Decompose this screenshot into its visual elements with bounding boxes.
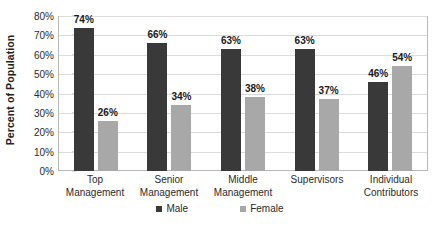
y-axis-title: Percent of Population [0,0,20,180]
x-axis-label-line1: Top [87,174,103,185]
bar-value-label: 37% [319,85,339,96]
bar-chart: Percent of Population 80%70%60%50%40%30%… [0,0,440,233]
bar-group: 63%38% [206,16,280,171]
y-axis-tick-label: 10% [18,146,54,157]
legend-label: Male [166,203,188,214]
y-axis-tick-label: 70% [18,30,54,41]
y-axis-tick-label: 50% [18,69,54,80]
bar-male[interactable]: 66% [147,43,167,171]
bar-groups: 74%26%66%34%63%38%63%37%46%54% [59,16,427,171]
x-axis-label-line1: Senior [155,174,184,185]
x-axis-category-labels: TopManagementSeniorManagementMiddleManag… [58,174,428,204]
x-axis-label-line1: Supervisors [291,174,344,185]
x-axis-label: IndividualContributors [354,174,428,204]
legend-label: Female [250,203,283,214]
bar-female[interactable]: 54% [392,66,412,171]
x-axis-label-line2: Contributors [354,187,428,200]
bar-slot-female: 37% [319,16,339,171]
y-axis-tick-label: 60% [18,49,54,60]
bar-value-label: 34% [171,91,191,102]
y-axis-tick-label: 30% [18,107,54,118]
bar-female[interactable]: 34% [171,105,191,171]
bar-value-label: 26% [98,107,118,118]
x-axis-label-line2: Management [206,187,280,200]
y-axis-title-text: Percent of Population [4,35,16,146]
y-axis-tick-label: 0% [18,166,54,177]
bar-slot-female: 34% [171,16,191,171]
x-axis-label: SeniorManagement [132,174,206,204]
bar-female[interactable]: 37% [319,99,339,171]
bar-male[interactable]: 46% [368,82,388,171]
bar-male[interactable]: 63% [295,49,315,171]
legend-swatch-female [240,206,246,212]
x-axis-label: MiddleManagement [206,174,280,204]
bar-male[interactable]: 74% [74,28,94,171]
bar-group: 74%26% [59,16,133,171]
x-axis-label-line1: Individual [370,174,412,185]
bar-male[interactable]: 63% [221,49,241,171]
bar-value-label: 54% [392,52,412,63]
bar-slot-male: 74% [74,16,94,171]
bar-slot-female: 38% [245,16,265,171]
y-axis-tick-label: 40% [18,88,54,99]
legend-item-male[interactable]: Male [156,203,188,214]
bar-group: 46%54% [353,16,427,171]
legend-swatch-male [156,206,162,212]
x-axis-label-line2: Management [132,187,206,200]
x-axis-label: TopManagement [58,174,132,204]
bar-female[interactable]: 26% [98,121,118,171]
x-axis-label-line1: Middle [228,174,257,185]
x-axis-label-line2: Management [58,187,132,200]
y-axis-tick-label: 80% [18,11,54,22]
plot-area: 74%26%66%34%63%38%63%37%46%54% [58,16,428,171]
bar-slot-female: 54% [392,16,412,171]
bar-value-label: 63% [221,35,241,46]
chart-legend: MaleFemale [0,203,440,214]
bar-value-label: 74% [74,14,94,25]
bar-slot-male: 63% [221,16,241,171]
bar-group: 66%34% [133,16,207,171]
bar-value-label: 66% [147,29,167,40]
bar-value-label: 38% [245,83,265,94]
x-axis-label: Supervisors [280,174,354,204]
bar-group: 63%37% [280,16,354,171]
bar-slot-male: 66% [147,16,167,171]
bar-value-label: 63% [295,35,315,46]
y-axis-tick-labels: 80%70%60%50%40%30%20%10%0% [18,11,54,171]
bar-slot-female: 26% [98,16,118,171]
legend-item-female[interactable]: Female [240,203,283,214]
y-axis-tick-label: 20% [18,127,54,138]
bar-slot-male: 63% [295,16,315,171]
bar-slot-male: 46% [368,16,388,171]
bar-female[interactable]: 38% [245,97,265,171]
bar-value-label: 46% [368,68,388,79]
